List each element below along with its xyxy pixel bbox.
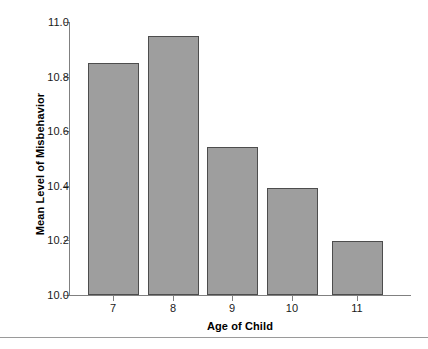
bar-age-8	[148, 36, 199, 295]
x-tick-label: 7	[110, 303, 116, 314]
x-axis-title: Age of Child	[69, 320, 411, 332]
bar-age-9	[207, 147, 258, 295]
x-tick-mark	[357, 296, 358, 301]
bar-age-7	[88, 63, 139, 295]
x-tick-label: 9	[229, 303, 235, 314]
x-tick-label: 11	[351, 303, 363, 314]
x-tick-label: 8	[170, 303, 176, 314]
x-tick-mark	[173, 296, 174, 301]
x-tick-mark	[292, 296, 293, 301]
plot-area: 11.0 10.8 10.6 10.4 10.2 10.0 7	[0, 0, 428, 349]
x-tick-mark	[113, 296, 114, 301]
x-tick-mark	[232, 296, 233, 301]
bottom-divider	[0, 337, 428, 338]
y-axis-line	[69, 22, 70, 296]
y-tick-label: 10.0	[7, 290, 69, 301]
bar-age-10	[267, 188, 318, 295]
y-axis-title: Mean Level of Misbehavior	[34, 54, 46, 274]
bar-age-11	[332, 241, 383, 295]
y-tick-label: 11.0	[7, 17, 69, 28]
x-tick-label: 10	[286, 303, 298, 314]
bar-chart-figure: 11.0 10.8 10.6 10.4 10.2 10.0 7	[0, 0, 428, 349]
x-axis-line	[69, 295, 411, 296]
